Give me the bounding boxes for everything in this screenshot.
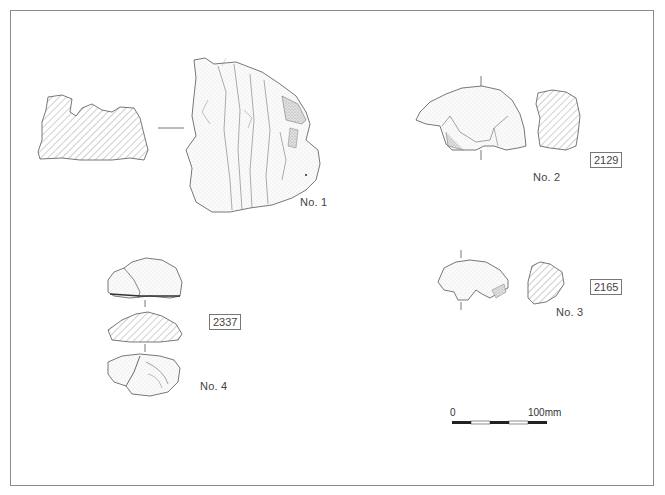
- artifact-2-id-badge: 2129: [590, 152, 622, 168]
- artifact-drawings: [0, 0, 665, 495]
- artifact-4-top: [108, 258, 182, 307]
- scale-start-label: 0: [450, 407, 456, 418]
- artifact-3-section: [528, 262, 564, 304]
- artifact-2-section: [536, 90, 580, 150]
- artifact-1-label: No. 1: [300, 196, 327, 208]
- artifact-4-label: No. 4: [200, 380, 227, 392]
- scale-end-label: 100mm: [528, 407, 561, 418]
- artifact-4-bottom: [108, 354, 180, 396]
- artifact-3-face: [438, 250, 508, 310]
- artifact-1-section: [38, 95, 148, 160]
- artifact-2-label: No. 2: [533, 171, 560, 183]
- artifact-1-face: [186, 58, 320, 212]
- artifact-4-section: [108, 312, 182, 352]
- artifact-3-id-badge: 2165: [590, 279, 622, 295]
- artifact-2-face: [416, 76, 526, 160]
- artifact-3-label: No. 3: [556, 306, 583, 318]
- artifact-4-id-badge: 2337: [209, 314, 241, 330]
- scale-bar: [452, 421, 547, 424]
